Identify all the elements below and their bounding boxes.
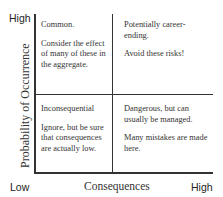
x-axis-high-label: High [191,181,213,193]
y-axis-label: Probability of Occurrence [18,43,33,168]
quadrant-body: Consider the effect of many of these in … [41,39,111,71]
quadrant-body: Avoid these risks! [124,49,186,60]
quadrant-bottom-right: Dangerous, but can usually be managed. M… [124,104,208,162]
quadrant-title: Dangerous, but can usually be managed. [124,104,208,125]
horizontal-divider [34,94,213,95]
quadrant-body: Many mistakes are made here. [124,133,208,154]
x-axis-low-label: Low [10,181,29,193]
quadrant-body: Ignore, but be sure that consequences ar… [41,123,113,155]
x-axis-line [34,172,213,174]
quadrant-bottom-left: Inconsequential Ignore, but be sure that… [41,104,113,162]
y-axis-high-label: High [9,12,31,24]
quadrant-top-left: Common. Consider the effect of many of t… [41,20,111,78]
quadrant-top-right: Potentially career-ending. Avoid these r… [124,20,186,68]
quadrant-title: Inconsequential [41,104,113,115]
quadrant-title: Common. [41,20,111,31]
quadrant-title: Potentially career-ending. [124,20,186,41]
x-axis-label: Consequences [84,180,150,192]
